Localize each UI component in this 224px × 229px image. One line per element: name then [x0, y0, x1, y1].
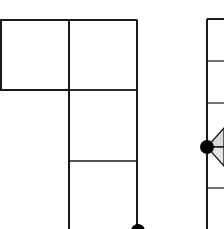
- diagram-canvas: [0, 0, 224, 229]
- node-bottom: [131, 224, 145, 229]
- cell-top-left: [1, 20, 69, 90]
- left-l-shape: [1, 20, 137, 229]
- node-left: [200, 140, 214, 154]
- right-strip: [207, 19, 224, 229]
- cell-top-right: [69, 20, 137, 90]
